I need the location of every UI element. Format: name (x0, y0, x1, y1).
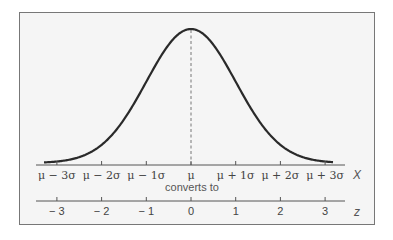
normal-curve-plot (0, 0, 393, 240)
x-tick-label: μ + 1σ (217, 169, 255, 182)
x-tick-label: μ − 2σ (83, 169, 121, 182)
z-tick-label: 3 (322, 205, 328, 217)
z-tick-label: − 1 (138, 205, 154, 217)
z-tick-label: − 3 (49, 205, 65, 217)
z-tick-label: 0 (188, 205, 194, 217)
normal-curve (44, 29, 333, 162)
x-tick-label: μ − 3σ (38, 169, 76, 182)
z-tick-label: − 2 (94, 205, 110, 217)
z-tick-label: 2 (277, 205, 283, 217)
x-tick-label: μ + 3σ (306, 169, 344, 182)
x-axis-name: X (353, 168, 361, 182)
converts-to-label: converts to (165, 181, 219, 193)
x-tick-label: μ − 1σ (127, 169, 165, 182)
x-tick-label: μ + 2σ (261, 169, 299, 182)
z-tick-label: 1 (233, 205, 239, 217)
z-axis-name: z (354, 205, 360, 219)
